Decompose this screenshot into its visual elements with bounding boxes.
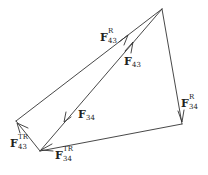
label-base: F xyxy=(181,97,189,110)
label-base: F xyxy=(124,55,132,68)
label-f43: F 43 xyxy=(124,56,132,67)
label-base: F xyxy=(55,149,63,162)
label-base: F xyxy=(10,137,18,150)
label-f43r: F R 43 xyxy=(100,32,108,43)
label-sub: 43 xyxy=(108,38,117,45)
label-base: F xyxy=(100,31,108,44)
label-sub: 43 xyxy=(132,62,141,69)
arrowhead-f43r-icon xyxy=(119,35,128,45)
arrowhead-f34-icon xyxy=(64,112,71,122)
label-sup: R xyxy=(108,28,113,35)
label-sub: 43 xyxy=(18,144,27,151)
label-sup: TR xyxy=(63,146,73,153)
force-polygon-diagram xyxy=(0,0,208,175)
label-base: F xyxy=(78,108,86,121)
label-f34: F 34 xyxy=(78,109,86,120)
label-sup: R xyxy=(189,94,194,101)
label-sub: 34 xyxy=(63,156,72,163)
vector-f34tr xyxy=(40,124,182,151)
label-f43tr: F TR 43 xyxy=(10,138,18,149)
label-sup: TR xyxy=(18,134,28,141)
label-sub: 34 xyxy=(86,115,95,122)
label-sub: 34 xyxy=(189,104,198,111)
vector-f34r xyxy=(162,9,182,124)
label-f34tr: F TR 34 xyxy=(55,150,63,161)
label-f34r: F R 34 xyxy=(181,98,189,109)
